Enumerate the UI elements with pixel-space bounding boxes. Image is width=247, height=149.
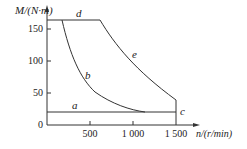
label-a: a: [72, 99, 78, 111]
x-axis-title: n/(r/min): [196, 128, 233, 140]
x-tick-label-500: 500: [83, 128, 98, 139]
y-tick-label-0: 0: [38, 119, 43, 130]
x-axis-arrow-icon: [193, 123, 200, 127]
curve-e: [100, 20, 176, 100]
label-e: e: [132, 48, 137, 60]
y-tick-label-50: 50: [33, 87, 43, 98]
y-axis-title: M/(N·m): [14, 4, 53, 17]
x-tick-label-1500: 1 500: [165, 128, 188, 139]
torque-speed-chart: 150 100 50 0 500 1 000 1 500 M/(N·m) n/(…: [0, 0, 247, 149]
label-d: d: [76, 7, 82, 19]
y-tick-label-150: 150: [28, 23, 43, 34]
x-tick-label-1000: 1 000: [122, 128, 145, 139]
label-b: b: [85, 69, 91, 81]
label-c: c: [180, 105, 185, 117]
y-tick-label-100: 100: [28, 55, 43, 66]
